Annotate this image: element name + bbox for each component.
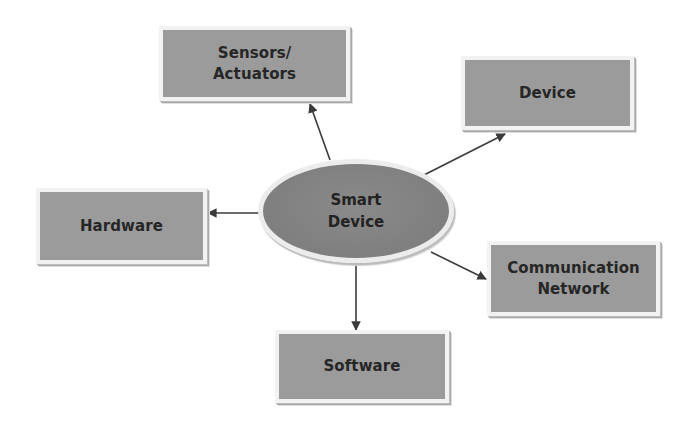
sensors-actuators-box: Sensors/ Actuators <box>159 26 350 101</box>
smart-device-hub: Smart Device <box>258 159 454 263</box>
software-box: Software <box>275 330 449 403</box>
communication-network-box: Communication Network <box>487 241 660 316</box>
smart-device-label: Smart Device <box>328 189 385 233</box>
arrow-to-sensors <box>310 104 330 160</box>
smart-device-diagram: Sensors/ Actuators Device Hardware Commu… <box>0 0 695 429</box>
sensors-actuators-label: Sensors/ Actuators <box>213 43 296 85</box>
hardware-label: Hardware <box>80 216 163 237</box>
device-label: Device <box>519 83 576 104</box>
device-box: Device <box>461 56 634 130</box>
arrow-to-device <box>422 134 505 176</box>
arrow-to-communication <box>431 252 486 279</box>
hardware-box: Hardware <box>36 188 207 264</box>
communication-network-label: Communication Network <box>507 258 640 300</box>
software-label: Software <box>323 356 400 377</box>
